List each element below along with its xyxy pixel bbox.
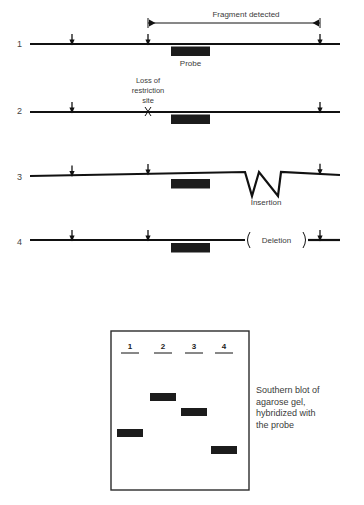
gel-band-lane-1 [117,429,143,437]
row-label-2: 2 [17,106,22,116]
probe-box-1 [171,47,210,57]
loss-of-site-label-line2: restriction [132,86,165,95]
loss-of-site-label-line3: site [142,96,154,105]
probe-label: Probe [180,59,202,68]
row-label-3: 3 [17,172,22,182]
deletion-label: Deletion [262,236,291,245]
row-label-4: 4 [17,237,22,247]
loss-of-site-label-line1: Loss of [136,76,161,85]
probe-box-4 [171,243,210,253]
gel-lane-number-3: 3 [192,342,197,351]
caption-line-4: the probe [256,420,360,432]
probe-box-3 [171,179,210,189]
figure-caption: Southern blot of agarose gel, hybridized… [256,385,360,431]
probe-box-2 [171,115,210,125]
gel-band-lane-4 [211,446,237,454]
caption-line-3: hybridized with [256,408,360,420]
gel-lane-number-1: 1 [128,342,133,351]
gel-lane-number-4: 4 [222,342,227,351]
figure-canvas: 1 Fragment detected Probe 2 Loss of rest… [0,0,364,505]
deletion-bracket-right [303,232,306,248]
gel-lane-number-2: 2 [161,342,166,351]
gel-band-lane-3 [181,408,207,416]
fragment-detected-measure [148,18,320,28]
insertion-label: Insertion [251,198,282,207]
gel-box [111,331,249,490]
row-label-1: 1 [17,39,22,49]
gel-band-lane-2 [150,393,176,401]
caption-line-1: Southern blot of [256,385,360,397]
deletion-bracket-left [248,232,251,248]
fragment-detected-label: Fragment detected [212,10,279,19]
caption-line-2: agarose gel, [256,397,360,409]
